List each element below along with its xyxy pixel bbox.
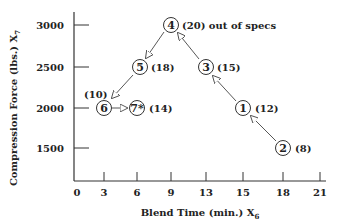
x-tick-15: 15 <box>236 187 250 198</box>
point-1: 1 (12) <box>236 101 279 116</box>
axes <box>74 12 326 181</box>
point-4-value: (20) out of specs <box>182 20 276 31</box>
chart: 3000 2500 2000 1500 0 3 6 9 13 15 18 21 … <box>0 0 339 224</box>
y-tick-2500: 2500 <box>36 62 64 73</box>
x-tick-9: 9 <box>168 187 175 198</box>
x-tick-6: 6 <box>134 187 141 198</box>
point-4: 4 (20) out of specs <box>164 18 277 33</box>
x-tick-13: 13 <box>199 187 213 198</box>
point-5: 5 (18) <box>133 60 175 75</box>
point-7: 7* (14) <box>130 101 173 116</box>
point-3-value: (15) <box>217 62 240 73</box>
y-tick-2000: 2000 <box>36 103 64 114</box>
x-axis-title: Blend Time (min.) X6 <box>141 207 260 221</box>
svg-text:7*: 7* <box>130 102 144 115</box>
point-2: 2 (8) <box>276 141 312 156</box>
x-tick-21: 21 <box>313 187 327 198</box>
svg-text:1: 1 <box>239 102 247 115</box>
svg-text:6: 6 <box>100 102 108 115</box>
trajectory-arrows <box>112 32 276 141</box>
y-tick-3000: 3000 <box>36 20 64 31</box>
x-tick-3: 3 <box>101 187 108 198</box>
y-axis-title: Compression Force (lbs.) X7 <box>8 30 22 186</box>
svg-text:4: 4 <box>167 19 175 32</box>
point-5-value: (18) <box>151 62 174 73</box>
point-6-value: (10) <box>84 89 107 100</box>
svg-text:3: 3 <box>202 61 210 74</box>
x-tick-0: 0 <box>74 187 81 198</box>
point-1-value: (12) <box>255 103 278 114</box>
x-tick-18: 18 <box>276 187 290 198</box>
point-2-value: (8) <box>295 143 311 154</box>
point-6: 6 (10) <box>84 89 112 116</box>
svg-text:5: 5 <box>136 61 144 74</box>
point-3: 3 (15) <box>199 60 241 75</box>
svg-text:2: 2 <box>279 142 287 155</box>
y-tick-1500: 1500 <box>36 143 64 154</box>
point-7-value: (14) <box>149 103 172 114</box>
